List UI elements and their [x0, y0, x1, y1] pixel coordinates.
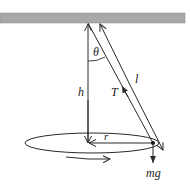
conical-pendulum-diagram: θ l h T r mg: [0, 0, 190, 187]
length-line-bottom: [130, 85, 163, 150]
ceiling: [0, 13, 185, 23]
tension-arrow: [122, 86, 128, 97]
radius-label: r: [104, 130, 109, 142]
theta-label: θ: [93, 45, 99, 59]
tension-label: T: [111, 85, 119, 99]
rotation-arrow: [66, 157, 110, 159]
length-label: l: [135, 72, 139, 86]
string: [88, 23, 153, 143]
weight-label: mg: [146, 166, 161, 180]
height-label: h: [78, 85, 84, 99]
